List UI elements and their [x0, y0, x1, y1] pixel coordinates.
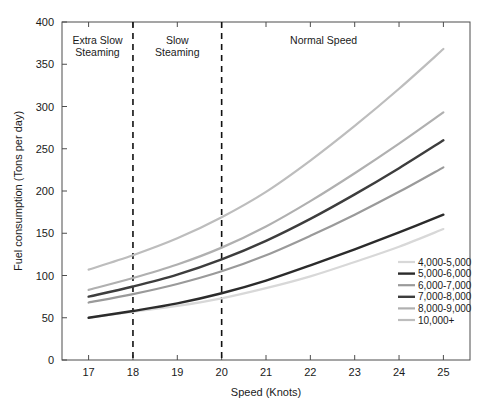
zone-label-slow-steaming: Slow	[166, 34, 189, 46]
y-tick-label-300: 300	[36, 101, 54, 113]
legend-label-2: 6,000-7,000	[418, 280, 472, 291]
legend-label-4: 8,000-9,000	[418, 303, 472, 314]
y-tick-label-50: 50	[42, 312, 54, 324]
x-tick-label-23: 23	[349, 366, 361, 378]
y-tick-label-350: 350	[36, 58, 54, 70]
x-tick-label-17: 17	[82, 366, 94, 378]
y-tick-label-100: 100	[36, 270, 54, 282]
x-tick-label-19: 19	[171, 366, 183, 378]
y-tick-label-200: 200	[36, 185, 54, 197]
legend-label-1: 5,000-6,000	[418, 268, 472, 279]
y-tick-label-150: 150	[36, 227, 54, 239]
y-tick-label-400: 400	[36, 16, 54, 28]
x-tick-label-21: 21	[260, 366, 272, 378]
x-tick-label-25: 25	[437, 366, 449, 378]
chart-canvas: 0501001502002503003504001718192021222324…	[0, 0, 504, 405]
x-tick-label-18: 18	[127, 366, 139, 378]
y-tick-label-0: 0	[48, 354, 54, 366]
zone-label-extra-slow-steaming: Extra Slow	[72, 34, 123, 46]
zone-label-extra-slow-steaming-line2: Steaming	[75, 46, 120, 58]
legend-label-5: 10,000+	[418, 315, 455, 326]
y-axis-title: Fuel consumption (Tons per day)	[12, 111, 24, 271]
x-tick-label-22: 22	[304, 366, 316, 378]
legend-label-0: 4,000-5,000	[418, 257, 472, 268]
figure-fuel-consumption-vs-speed: 0501001502002503003504001718192021222324…	[0, 0, 504, 405]
x-tick-label-24: 24	[393, 366, 405, 378]
zone-label-normal-speed: Normal Speed	[290, 34, 357, 46]
x-axis-title: Speed (Knots)	[231, 386, 301, 398]
legend-label-3: 7,000-8,000	[418, 291, 472, 302]
line-chart: 0501001502002503003504001718192021222324…	[0, 0, 504, 405]
zone-label-slow-steaming-line2: Steaming	[155, 46, 200, 58]
x-tick-label-20: 20	[216, 366, 228, 378]
y-tick-label-250: 250	[36, 143, 54, 155]
